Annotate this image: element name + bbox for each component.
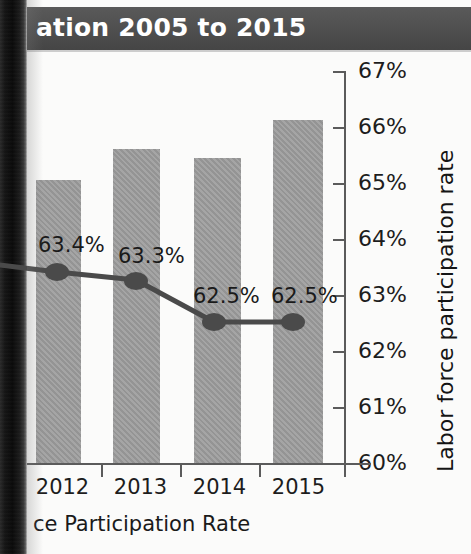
data-label-2012: 63.4% [38,235,105,256]
chart-legend-caption: ce Participation Rate [33,512,250,536]
y-axis-title: Labor force participation rate [399,60,443,480]
line-marker-2015 [281,313,305,331]
data-label-2015: 62.5% [271,286,338,307]
data-label-2014: 62.5% [193,286,260,307]
line-marker-2013 [124,272,148,290]
line-marker-2012 [45,263,69,281]
scanned-page: ation 2005 to 2015 67% 66% 65% 64% 63% 6… [0,0,471,554]
data-label-2013: 63.3% [118,246,185,267]
y-axis-title-text: Labor force participation rate [433,150,458,472]
line-marker-2014 [202,313,226,331]
